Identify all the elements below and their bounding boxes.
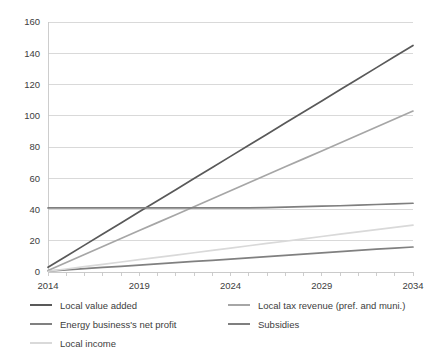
legend-item[interactable]: Local tax revenue (pref. and muni.) [228,296,432,314]
x-tick-2019: 2019 [129,280,150,291]
legend-item-label: Energy business's net profit [60,319,176,330]
legend-item[interactable]: Local income [30,334,230,352]
legend-column-0: Local value addedEnergy business's net p… [30,296,230,353]
y-tick-160: 160 [24,16,40,27]
y-tick-20: 20 [29,235,40,246]
x-tick-2034: 2034 [402,280,423,291]
x-tick-2024: 2024 [220,280,241,291]
y-axis-tick-labels: 020406080100120140160 [24,16,40,277]
legend-swatch-icon [228,323,250,325]
y-tick-140: 140 [24,48,40,59]
data-series-lines [48,45,413,271]
series-line-2 [48,247,413,271]
chart-plot-area: 020406080100120140160 201420192024202920… [0,0,432,300]
legend-item[interactable]: Energy business's net profit [30,315,230,333]
y-tick-100: 100 [24,110,40,121]
y-tick-80: 80 [29,141,40,152]
legend-swatch-icon [30,323,52,325]
legend-column-1: Local tax revenue (pref. and muni.)Subsi… [228,296,432,334]
legend-item[interactable]: Subsidies [228,315,432,333]
x-tick-2029: 2029 [311,280,332,291]
legend-item-label: Local tax revenue (pref. and muni.) [258,300,405,311]
legend-item-label: Subsidies [258,319,299,330]
legend-swatch-icon [30,342,52,344]
series-line-1 [48,111,413,270]
legend-swatch-icon [228,304,250,306]
y-tick-0: 0 [35,266,40,277]
x-axis-tick-labels: 20142019202420292034 [37,280,423,291]
series-line-0 [48,45,413,267]
legend-item-label: Local value added [60,300,137,311]
x-axis-tickmarks [48,272,413,276]
series-line-3 [48,203,413,208]
y-tick-40: 40 [29,204,40,215]
series-line-4 [48,225,413,271]
legend-item[interactable]: Local value added [30,296,230,314]
x-tick-2014: 2014 [37,280,58,291]
y-tick-60: 60 [29,173,40,184]
legend-swatch-icon [30,304,52,306]
chart-legend: Local value addedEnergy business's net p… [30,296,430,354]
line-chart: 020406080100120140160 201420192024202920… [0,0,432,356]
y-tick-120: 120 [24,79,40,90]
legend-item-label: Local income [60,338,116,349]
